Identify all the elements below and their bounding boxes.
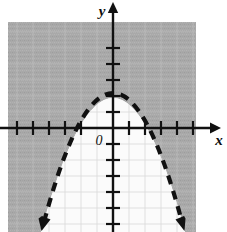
parabola-graph-figure: y x 0 bbox=[0, 0, 227, 232]
y-axis-label: y bbox=[97, 3, 106, 19]
graph-canvas: y x 0 bbox=[0, 0, 227, 232]
x-axis-label: x bbox=[214, 132, 223, 148]
origin-label: 0 bbox=[96, 133, 103, 148]
